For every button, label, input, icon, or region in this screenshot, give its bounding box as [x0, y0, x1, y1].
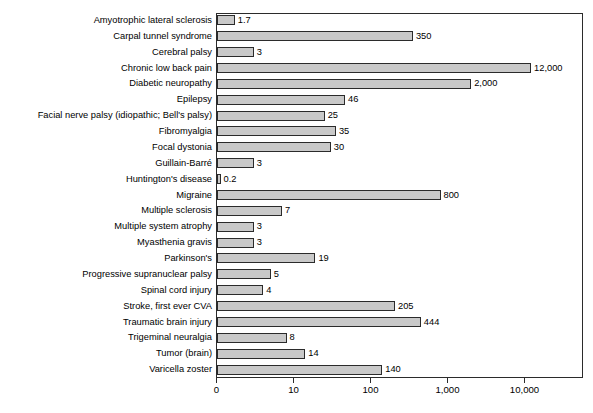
bar-row: Spinal cord injury4	[0, 283, 593, 298]
bar-value-label: 14	[308, 346, 318, 361]
bar	[217, 142, 331, 152]
bar-value-label: 3	[257, 45, 262, 60]
x-axis-tick	[370, 378, 372, 383]
category-label: Epilepsy	[0, 92, 212, 107]
bar	[217, 63, 531, 73]
bar-value-label: 0.2	[224, 172, 237, 187]
category-label: Trigeminal neuralgia	[0, 330, 212, 345]
category-label: Chronic low back pain	[0, 61, 212, 76]
category-label: Stroke, first ever CVA	[0, 299, 212, 314]
category-label: Fibromyalgia	[0, 124, 212, 139]
category-label: Traumatic brain injury	[0, 315, 212, 330]
bar-row: Fibromyalgia35	[0, 124, 593, 139]
bar-row: Amyotrophic lateral sclerosis1.7	[0, 13, 593, 28]
bar-value-label: 444	[424, 315, 440, 330]
bar-row: Trigeminal neuralgia8	[0, 330, 593, 345]
bar-value-label: 8	[290, 330, 295, 345]
bar-row: Varicella zoster140	[0, 362, 593, 377]
bar-value-label: 4	[266, 283, 271, 298]
x-axis-tick-label: 1,000	[435, 384, 459, 396]
bar-value-label: 3	[257, 235, 262, 250]
category-label: Huntington's disease	[0, 172, 212, 187]
bar-value-label: 19	[318, 251, 328, 266]
bar-value-label: 46	[348, 92, 358, 107]
bar	[217, 206, 282, 216]
bar-row: Traumatic brain injury444	[0, 315, 593, 330]
x-axis-tick	[524, 378, 526, 383]
bar	[217, 79, 471, 89]
bar	[217, 111, 325, 121]
bar-value-label: 35	[339, 124, 349, 139]
bar	[217, 301, 395, 311]
x-axis: 0101001,00010,000	[0, 378, 593, 408]
bar-row: Myasthenia gravis3	[0, 235, 593, 250]
category-label: Multiple sclerosis	[0, 203, 212, 218]
x-axis-tick-label: 100	[362, 384, 378, 396]
bar	[217, 285, 263, 295]
bar-chart: Amyotrophic lateral sclerosis1.7Carpal t…	[0, 0, 593, 413]
bar-value-label: 2,000	[474, 76, 497, 91]
category-label: Facial nerve palsy (idiopathic; Bell's p…	[0, 108, 212, 123]
bar-value-label: 1.7	[238, 13, 251, 28]
bar-row: Huntington's disease0.2	[0, 172, 593, 187]
bar-value-label: 5	[274, 267, 279, 282]
x-axis-tick-label: 0	[214, 384, 219, 396]
bar-value-label: 3	[257, 156, 262, 171]
bar-row: Stroke, first ever CVA205	[0, 299, 593, 314]
bar	[217, 317, 421, 327]
bar	[217, 47, 254, 57]
x-axis-tick	[293, 378, 295, 383]
bar-row: Cerebral palsy3	[0, 45, 593, 60]
category-label: Focal dystonia	[0, 140, 212, 155]
category-label: Myasthenia gravis	[0, 235, 212, 250]
bar-row: Migraine800	[0, 188, 593, 203]
bar-row: Multiple sclerosis7	[0, 203, 593, 218]
bar-rows-container: Amyotrophic lateral sclerosis1.7Carpal t…	[0, 13, 593, 378]
bar-value-label: 30	[334, 140, 344, 155]
bar-row: Chronic low back pain12,000	[0, 61, 593, 76]
category-label: Spinal cord injury	[0, 283, 212, 298]
category-label: Guillain-Barré	[0, 156, 212, 171]
bar-value-label: 25	[328, 108, 338, 123]
category-label: Cerebral palsy	[0, 45, 212, 60]
bar-row: Epilepsy46	[0, 92, 593, 107]
bar	[217, 190, 441, 200]
bar	[217, 349, 305, 359]
bar-value-label: 7	[285, 203, 290, 218]
category-label: Multiple system atrophy	[0, 219, 212, 234]
bar-row: Progressive supranuclear palsy5	[0, 267, 593, 282]
bar	[217, 222, 254, 232]
bar	[217, 158, 254, 168]
bar-row: Carpal tunnel syndrome350	[0, 29, 593, 44]
category-label: Diabetic neuropathy	[0, 76, 212, 91]
bar-value-label: 12,000	[534, 61, 562, 76]
bar	[217, 15, 235, 25]
bar	[217, 126, 336, 136]
x-axis-tick-label: 10	[288, 384, 299, 396]
bar-value-label: 350	[416, 29, 432, 44]
bar	[217, 365, 382, 375]
bar-value-label: 140	[385, 362, 401, 377]
bar-row: Tumor (brain)14	[0, 346, 593, 361]
bar	[217, 95, 345, 105]
bar-row: Parkinson's19	[0, 251, 593, 266]
bar-value-label: 3	[257, 219, 262, 234]
bar	[217, 253, 315, 263]
bar-row: Guillain-Barré3	[0, 156, 593, 171]
bar-value-label: 800	[444, 188, 460, 203]
category-label: Parkinson's	[0, 251, 212, 266]
category-label: Varicella zoster	[0, 362, 212, 377]
bar-row: Diabetic neuropathy2,000	[0, 76, 593, 91]
category-label: Migraine	[0, 188, 212, 203]
bar	[217, 174, 221, 184]
bar-row: Facial nerve palsy (idiopathic; Bell's p…	[0, 108, 593, 123]
bar	[217, 238, 254, 248]
x-axis-tick	[447, 378, 449, 383]
bar-value-label: 205	[398, 299, 414, 314]
x-axis-tick-label: 10,000	[510, 384, 539, 396]
bar-row: Multiple system atrophy3	[0, 219, 593, 234]
category-label: Amyotrophic lateral sclerosis	[0, 13, 212, 28]
category-label: Carpal tunnel syndrome	[0, 29, 212, 44]
category-label: Progressive supranuclear palsy	[0, 267, 212, 282]
category-label: Tumor (brain)	[0, 346, 212, 361]
